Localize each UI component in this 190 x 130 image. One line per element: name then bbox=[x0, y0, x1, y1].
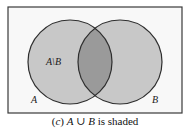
region-label-a-minus-b: A\B bbox=[45, 56, 61, 67]
set-label-b: B bbox=[152, 94, 158, 105]
venn-diagram: A\B A B bbox=[0, 0, 190, 130]
caption-set-b: B bbox=[88, 115, 95, 127]
caption-paren-close: ) bbox=[60, 115, 64, 127]
set-label-a: A bbox=[30, 94, 38, 105]
caption-suffix: is shaded bbox=[95, 115, 138, 127]
caption-union-operator: ∪ bbox=[73, 115, 88, 127]
figure-caption: (c) A ∪ B is shaded bbox=[0, 115, 190, 128]
